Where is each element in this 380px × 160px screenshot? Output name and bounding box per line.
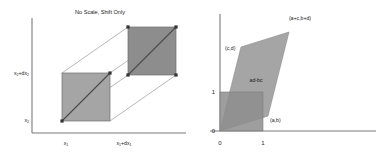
right-panel-svg: (a+c,b+d) (c,d) (a,b) ad-bc 1 0 0 1 <box>190 0 380 160</box>
label-vertex-sum: (a+c,b+d) <box>289 15 311 21</box>
left-panel-svg: No Scale, Shift Only <box>0 0 190 160</box>
marker-shifted-top-left <box>126 25 129 28</box>
label-area: ad-bc <box>250 77 263 83</box>
right-y-tick-1: 1 <box>212 89 216 95</box>
label-vertex-cd: (c,d) <box>225 45 236 51</box>
left-panel-title: No Scale, Shift Only <box>75 9 125 15</box>
label-vertex-ab: (a,b) <box>270 117 281 123</box>
marker-shifted-top-right <box>174 25 177 28</box>
marker-shifted-bottom-left <box>126 73 129 76</box>
right-x-tick-1: 1 <box>261 140 265 146</box>
left-x-tick-left: x1 <box>64 140 69 147</box>
left-y-tick-lower: x2 <box>24 117 29 124</box>
unit-square-shape <box>220 92 263 131</box>
left-panel: No Scale, Shift Only <box>0 0 190 160</box>
marker-original-top-right <box>108 71 111 74</box>
left-y-tick-upper: x2+dx2 <box>14 70 29 77</box>
marker-original-bottom-left <box>60 119 63 122</box>
left-x-tick-right: x1+dx1 <box>116 140 131 147</box>
right-panel: (a+c,b+d) (c,d) (a,b) ad-bc 1 0 0 1 <box>190 0 380 160</box>
marker-shifted-bottom-right <box>174 73 177 76</box>
figure-root: No Scale, Shift Only <box>0 0 380 160</box>
right-x-tick-0: 0 <box>218 140 222 146</box>
